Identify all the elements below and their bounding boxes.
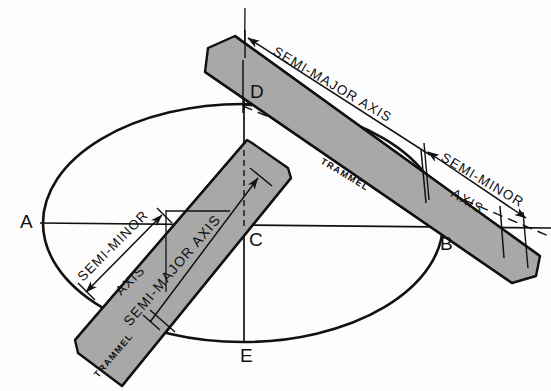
point-label-c: C [249, 229, 263, 250]
diagram-canvas: SEMI-MAJOR AXIS SEMI-MINOR AXIS TRAMMEL … [0, 0, 551, 391]
point-label-a: A [20, 211, 33, 232]
trammel-ellipse-diagram: SEMI-MAJOR AXIS SEMI-MINOR AXIS TRAMMEL … [0, 0, 551, 391]
point-label-d: D [250, 81, 264, 102]
point-label-b: B [440, 233, 453, 254]
point-label-e: E [240, 345, 253, 366]
